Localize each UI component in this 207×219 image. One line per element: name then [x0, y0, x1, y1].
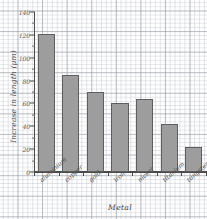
bars-group: [34, 12, 206, 172]
bar-nickel: [136, 99, 153, 172]
x-axis-title: Metal: [34, 203, 206, 212]
y-tick-label: 140: [12, 9, 30, 16]
x-tick-mark: [206, 171, 207, 176]
x-tick-mark: [157, 171, 158, 176]
x-tick-mark: [108, 171, 109, 176]
x-tick-mark: [83, 171, 84, 176]
x-tick-mark: [59, 171, 60, 176]
x-tick-mark: [34, 171, 35, 176]
bar-aluminium: [38, 34, 55, 172]
x-tick-mark: [181, 171, 182, 176]
bar-iron: [111, 103, 128, 172]
top-caption: [40, 0, 207, 6]
y-axis-title: Increase in length (μm): [9, 22, 18, 172]
x-tick-mark: [132, 171, 133, 176]
bar-chart: 020406080100120140 Increase in length (μ…: [0, 0, 207, 219]
bar-gold: [87, 92, 104, 172]
